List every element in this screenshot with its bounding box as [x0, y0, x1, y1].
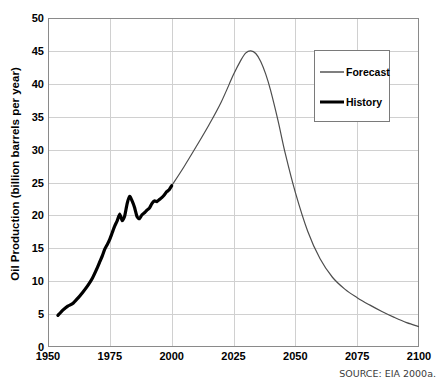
x-tick-label: 2050 — [283, 350, 307, 362]
forecast-line-swatch-icon — [320, 67, 344, 77]
y-tick-label: 25 — [10, 177, 48, 189]
y-tick-label: 5 — [10, 308, 48, 320]
legend-label-forecast: Forecast — [346, 66, 390, 78]
y-tick-label: 50 — [10, 12, 48, 24]
y-tick-label: 10 — [10, 275, 48, 287]
x-axis-tick-labels: 1950197520002025205020752100 — [0, 350, 441, 370]
y-tick-label: 40 — [10, 78, 48, 90]
y-tick-label: 35 — [10, 111, 48, 123]
x-tick-label: 2025 — [221, 350, 245, 362]
x-tick-label: 1950 — [36, 350, 60, 362]
chart-figure: Oil Production (billion barrels per year… — [0, 0, 441, 388]
legend-item-history: History — [315, 95, 389, 109]
y-tick-label: 30 — [10, 144, 48, 156]
y-axis-tick-labels: 05101520253035404550 — [10, 0, 48, 388]
x-tick-label: 2075 — [345, 350, 369, 362]
x-tick-label: 1975 — [98, 350, 122, 362]
legend-label-history: History — [346, 96, 382, 108]
y-tick-label: 20 — [10, 209, 48, 221]
history-line-swatch-icon — [320, 97, 344, 107]
history-line — [58, 186, 172, 316]
x-tick-label: 2100 — [407, 350, 431, 362]
legend-item-forecast: Forecast — [315, 65, 389, 79]
y-tick-label: 45 — [10, 45, 48, 57]
chart-legend: Forecast History — [314, 50, 390, 122]
source-note: SOURCE: EIA 2000a. — [0, 368, 436, 379]
x-tick-label: 2000 — [159, 350, 183, 362]
y-tick-label: 15 — [10, 242, 48, 254]
